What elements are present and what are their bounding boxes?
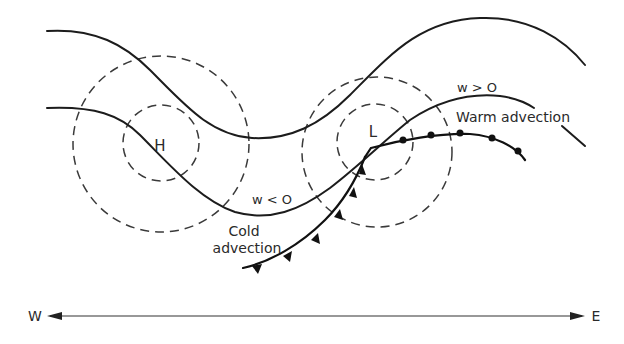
high-pressure-label: H [154,137,165,155]
east-label: E [592,308,601,324]
weather-diagram: H L w > O Warm advection w < O Cold adve… [0,0,624,344]
low-pressure-label: L [369,123,378,141]
low-outer-isobar [302,77,452,227]
west-label: W [28,308,42,324]
west-arrowhead-icon [47,312,62,320]
cold-advection-label-line1: Cold [228,223,259,239]
lower-height-contour-end [562,126,585,146]
cold-advection-label-line2: advection [213,240,282,256]
warm-w-label: w > O [457,80,497,95]
east-arrowhead-icon [570,312,585,320]
cold-w-label: w < O [252,192,292,207]
cold-front-triangles [252,164,366,274]
warm-advection-label: Warm advection [456,109,570,125]
